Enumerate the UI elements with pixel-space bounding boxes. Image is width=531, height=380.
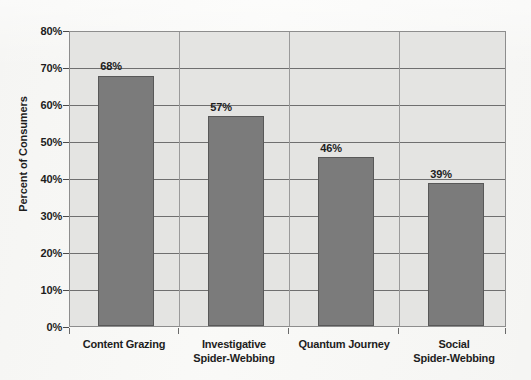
bar-chart: Percent of Consumers 80% 70% 60% 50% 40%…	[0, 0, 531, 380]
bar-content-grazing	[98, 76, 154, 326]
x-category-line: Spider-Webbing	[176, 352, 292, 366]
bar-social-spider-webbing	[428, 183, 484, 326]
x-tick-mark-4	[505, 328, 506, 334]
x-category-label-investigative-spider-webbing: Investigative Spider-Webbing	[176, 338, 292, 365]
y-axis-tick-labels: 80% 70% 60% 50% 40% 30% 20% 10% 0%	[0, 0, 62, 380]
data-label-content-grazing: 68%	[83, 60, 139, 72]
y-tick-label-40: 40%	[41, 173, 62, 185]
category-separator-3	[399, 32, 400, 326]
category-separator-2	[289, 32, 290, 326]
y-tick-label-0: 0%	[47, 321, 63, 333]
x-tick-mark-0	[69, 328, 70, 334]
bar-investigative-spider-webbing	[208, 116, 264, 326]
x-tick-mark-2	[288, 328, 289, 334]
x-category-line: Investigative	[176, 338, 292, 352]
x-category-line: Spider-Webbing	[396, 352, 512, 366]
x-category-line: Social	[396, 338, 512, 352]
y-tick-label-20: 20%	[41, 247, 62, 259]
x-category-line: Quantum Journey	[286, 338, 402, 352]
x-category-line: Content Grazing	[66, 338, 182, 352]
x-tick-mark-3	[398, 328, 399, 334]
y-tick-label-10: 10%	[41, 284, 62, 296]
y-tick-label-30: 30%	[41, 210, 62, 222]
y-tick-label-80: 80%	[41, 25, 62, 37]
x-category-label-content-grazing: Content Grazing	[66, 338, 182, 352]
x-category-label-social-spider-webbing: Social Spider-Webbing	[396, 338, 512, 365]
y-tick-label-50: 50%	[41, 136, 62, 148]
x-tick-mark-1	[178, 328, 179, 334]
category-separator-1	[179, 32, 180, 326]
data-label-social-spider-webbing: 39%	[413, 168, 469, 180]
bar-quantum-journey	[318, 157, 374, 326]
x-category-label-quantum-journey: Quantum Journey	[286, 338, 402, 352]
y-tick-label-60: 60%	[41, 99, 62, 111]
data-label-quantum-journey: 46%	[303, 142, 359, 154]
y-tick-label-70: 70%	[41, 62, 62, 74]
data-label-investigative-spider-webbing: 57%	[193, 101, 249, 113]
